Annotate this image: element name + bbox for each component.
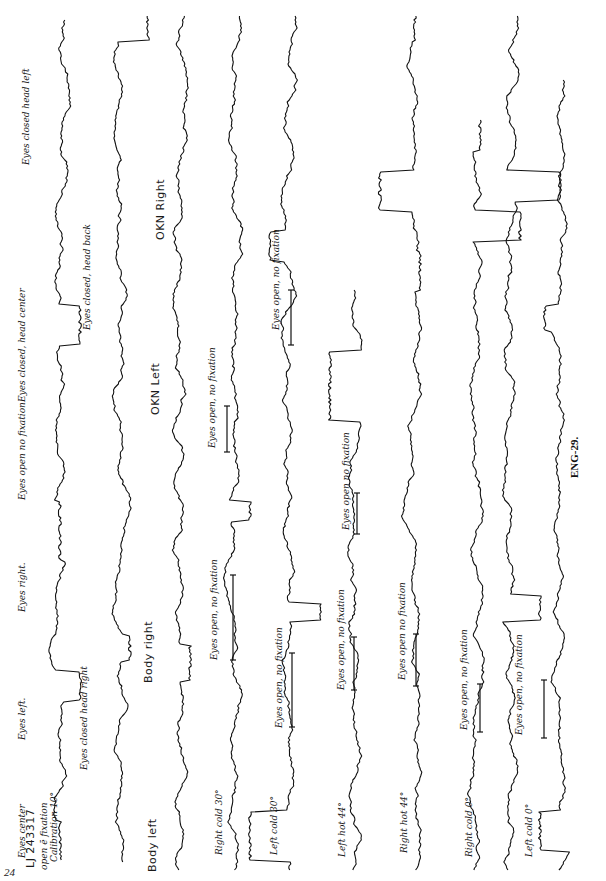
label-eyes-closed-head-back: Eyes closed, head back [83,224,92,330]
calibration-label: Calibration 10° [50,792,59,862]
label-left-cold-0: Left cold 0° [525,804,534,857]
eng-trace-3 [172,16,191,870]
label-eyes-closed-head-right: Eyes closed head right [80,666,89,770]
label-eyes-open-no-fixation-10: Eyes open, no fixation [515,634,524,735]
label-eyes-closed-head-center: Eyes closed, head center [18,288,27,402]
eng-trace-2 [112,16,149,862]
fixation-marker-bar-2 [230,575,236,660]
label-eyes-open-no-fixation-8: Eyes open no fixation [398,582,407,680]
eng-trace-10 [539,80,570,870]
label-right-cold-0: Right cold 0° [465,797,474,857]
label-right-hot-44: Right hot 44° [400,792,409,853]
label-okn-left: OKN Left [150,363,161,415]
label-eyes-closed-head-left: Eyes closed head left [22,68,31,165]
label-eyes-left: Eyes left. [18,698,27,740]
label-left-hot-44: Left hot 44° [338,802,347,857]
label-eyes-center: Eyes center [18,804,27,858]
fixation-marker-bar-3 [224,406,230,452]
eng-trace-7 [379,16,422,870]
label-body-left: Body left [147,818,158,872]
label-eyes-open-no-fixation-2: Eyes open, no fixation [210,559,219,660]
label-body-right: Body right [143,621,154,683]
label-eyes-open-no-fixation-6: Eyes open no fixation [342,432,351,530]
label-right-cold-30: Right cold 30° [215,789,224,855]
label-eyes-open-no-fixation-7: Eyes open, no fixation [337,589,346,690]
label-eyes-right: Eyes right. [18,562,27,612]
eng-trace-9 [502,16,561,870]
page-number: 24 [4,866,15,878]
fixation-marker-bar-9 [477,684,483,732]
label-okn-right: OKN Right [155,179,166,240]
label-eyes-open-no-fixation-5: Eyes open, no fixation [275,627,284,728]
label-eyes-open-no-fixation-1: Eyes open no fixation [18,402,27,500]
label-eyes-open-no-fixation-4: Eyes open, no fixation [272,229,281,330]
eng-trace-6 [329,290,362,870]
eng-trace-5 [249,16,322,870]
eng-trace-4 [224,16,252,870]
label-eyes-open-no-fixation-9: Eyes open, no fixation [460,629,469,730]
label-eyes-open-no-fixation-3: Eyes open, no fixation [208,347,217,448]
eng-trace-1 [49,20,82,860]
eng-figure: LJ 243317 open ē fixation Calibration 10… [0,0,606,881]
eng-trace-8 [468,120,522,870]
fixation-marker-bar-4 [288,290,294,345]
label-left-cold-30: Left cold 30° [270,796,279,855]
figure-caption: ENG-29. [568,437,580,478]
eng-trace-canvas [0,0,606,881]
calibration-condition: open ē fixation [40,802,49,870]
fixation-marker-bar-10 [541,680,547,738]
